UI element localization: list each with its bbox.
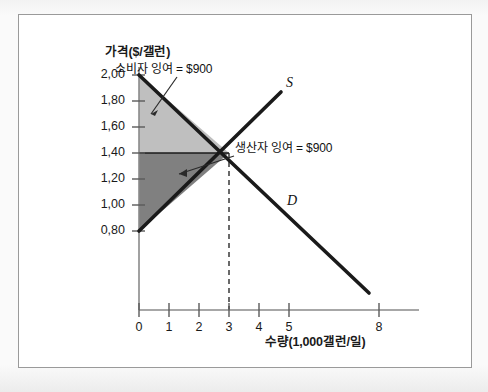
- supply-demand-chart: [19, 15, 471, 367]
- demand-curve-label: D: [287, 193, 297, 209]
- y-tick-label-1-40: 1,40: [91, 145, 125, 159]
- x-tick-label-1: 1: [160, 320, 178, 334]
- x-tick-label-2: 2: [190, 320, 208, 334]
- producer-surplus-annotation: 생산자 잉여 = $900: [235, 138, 332, 155]
- y-tick-label-1-20: 1,20: [91, 171, 125, 185]
- plot-area: 가격($/갤런) 수량(1,000갤런/일) 2,00 1,80 1,60 1,…: [19, 15, 471, 367]
- y-tick-label-1-00: 1,00: [91, 197, 125, 211]
- x-tick-label-5: 5: [280, 320, 298, 334]
- figure-root: 가격($/갤런) 수량(1,000갤런/일) 2,00 1,80 1,60 1,…: [0, 0, 488, 392]
- x-tick-label-3: 3: [220, 320, 238, 334]
- y-tick-label-1-60: 1,60: [91, 119, 125, 133]
- supply-curve-label: S: [286, 75, 293, 91]
- x-tick-label-4: 4: [250, 320, 268, 334]
- figure-frame: 가격($/갤런) 수량(1,000갤런/일) 2,00 1,80 1,60 1,…: [18, 14, 472, 368]
- x-tick-label-0: 0: [130, 320, 148, 334]
- x-tick-label-8: 8: [370, 320, 388, 334]
- y-tick-label-0-80: 0,80: [91, 223, 125, 237]
- y-tick-label-1-80: 1,80: [91, 93, 125, 107]
- y-axis-title: 가격($/갤런): [105, 41, 170, 60]
- consumer-surplus-annotation: 소비자 잉여 = $900: [115, 59, 212, 76]
